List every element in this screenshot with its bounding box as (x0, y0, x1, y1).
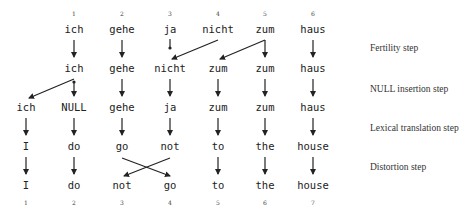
translation-word: go (116, 140, 129, 152)
null-insertion-word: haus (300, 101, 325, 113)
null-insertion-word: gehe (109, 101, 134, 113)
target-index: 6 (263, 199, 267, 206)
translation-word: house (297, 140, 329, 152)
target-word: to (212, 179, 225, 191)
arrow-null-ich (29, 79, 74, 98)
translation-word: to (212, 140, 225, 152)
target-word: do (68, 179, 81, 191)
source-word: ich (65, 23, 84, 35)
insert-dot-icon (72, 80, 75, 83)
source-word: haus (300, 23, 325, 35)
target-word: not (113, 179, 132, 191)
source-word: ja (164, 23, 177, 35)
null-insertion-word: zum (209, 101, 228, 113)
translation-word: do (68, 140, 81, 152)
fertility-word: haus (300, 62, 325, 74)
fertility-word: zum (256, 62, 275, 74)
null-insertion-word: ja (164, 101, 177, 113)
source-index: 6 (311, 10, 315, 17)
target-index: 7 (311, 199, 315, 206)
step-label-fertility: Fertility step (370, 43, 418, 53)
target-index: 5 (216, 199, 220, 206)
target-index: 2 (72, 199, 76, 206)
target-word: house (297, 179, 329, 191)
source-index: 4 (216, 10, 220, 17)
source-index: 1 (72, 10, 76, 17)
null-insertion-word: NULL (61, 101, 86, 113)
step-label-lexical-translation: Lexical translation step (370, 123, 459, 133)
fertility-word: zum (209, 62, 228, 74)
translation-word: I (23, 140, 29, 152)
translation-word: the (256, 140, 275, 152)
target-index: 1 (24, 199, 28, 206)
fertility-word: ich (65, 62, 84, 74)
null-insertion-word: ich (17, 101, 36, 113)
step-label-distortion: Distortion step (370, 162, 426, 172)
target-index: 4 (168, 199, 172, 206)
source-index: 5 (263, 10, 267, 17)
translation-word: not (161, 140, 180, 152)
target-word: the (256, 179, 275, 191)
source-word: gehe (109, 23, 134, 35)
source-word: zum (256, 23, 275, 35)
null-insertion-word: zum (256, 101, 275, 113)
step-label-null-insertion: NULL insertion step (370, 84, 448, 94)
source-index: 3 (168, 10, 172, 17)
arrow-fertility-zum-left (220, 40, 265, 59)
source-word: nicht (202, 23, 234, 35)
fertility-word: nicht (154, 62, 186, 74)
ibm-model-diagram: 1 2 3 4 5 6 ich gehe ja nicht zum haus i… (0, 0, 465, 216)
drop-dot-icon (168, 46, 171, 49)
target-word: I (23, 179, 29, 191)
target-word: go (164, 179, 177, 191)
fertility-word: gehe (109, 62, 134, 74)
arrow-fertility-nicht (172, 40, 218, 59)
source-index: 2 (120, 10, 124, 17)
target-index: 3 (120, 199, 124, 206)
